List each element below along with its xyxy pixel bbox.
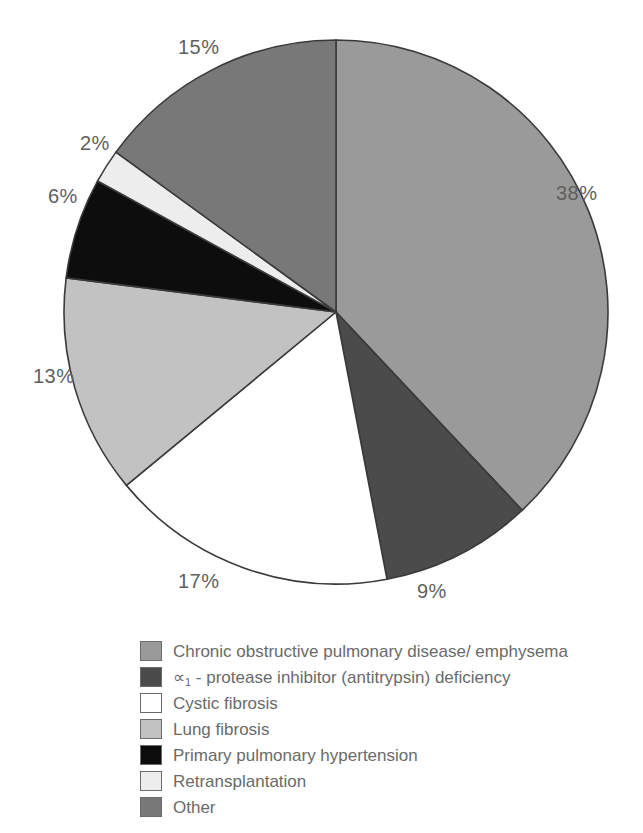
legend-item-copd[interactable]: Chronic obstructive pulmonary disease/ e… bbox=[140, 638, 640, 664]
legend-label-lung-fibrosis: Lung fibrosis bbox=[173, 721, 269, 738]
legend-label-other: Other bbox=[173, 799, 216, 816]
legend-swatch-lung-fibrosis bbox=[140, 719, 162, 739]
legend-item-cystic-fibrosis[interactable]: Cystic fibrosis bbox=[140, 690, 640, 716]
legend-item-other[interactable]: Other bbox=[140, 794, 640, 820]
legend-swatch-primary-pulmonary-hypertension bbox=[140, 745, 162, 765]
legend-label-copd: Chronic obstructive pulmonary disease/ e… bbox=[173, 643, 568, 660]
slice-percent-label-other: 15% bbox=[178, 36, 220, 59]
legend-swatch-cystic-fibrosis bbox=[140, 693, 162, 713]
slice-percent-label-retransplantation: 2% bbox=[80, 132, 110, 155]
legend-item-primary-pulmonary-hypertension[interactable]: Primary pulmonary hypertension bbox=[140, 742, 640, 768]
legend-swatch-other bbox=[140, 797, 162, 817]
legend-swatch-retransplantation bbox=[140, 771, 162, 791]
legend-swatch-antitrypsin-deficiency bbox=[140, 667, 162, 687]
legend-label-antitrypsin-deficiency: ∝1 - protease inhibitor (antitrypsin) de… bbox=[173, 669, 511, 686]
chart-legend: Chronic obstructive pulmonary disease/ e… bbox=[140, 638, 640, 820]
legend-item-antitrypsin-deficiency[interactable]: ∝1 - protease inhibitor (antitrypsin) de… bbox=[140, 664, 640, 690]
legend-swatch-copd bbox=[140, 641, 162, 661]
legend-label-cystic-fibrosis: Cystic fibrosis bbox=[173, 695, 278, 712]
slice-percent-label-antitrypsin-deficiency: 9% bbox=[417, 580, 447, 603]
slice-percent-label-primary-pulmonary-hypertension: 6% bbox=[48, 185, 78, 208]
slice-percent-label-lung-fibrosis: 13% bbox=[33, 365, 75, 388]
legend-item-lung-fibrosis[interactable]: Lung fibrosis bbox=[140, 716, 640, 742]
pie-chart: 38%9%17%13%6%2%15% bbox=[0, 0, 643, 620]
slice-percent-label-copd: 38% bbox=[556, 182, 598, 205]
slice-percent-label-cystic-fibrosis: 17% bbox=[178, 570, 220, 593]
legend-label-retransplantation: Retransplantation bbox=[173, 773, 306, 790]
legend-item-retransplantation[interactable]: Retransplantation bbox=[140, 768, 640, 794]
pie-chart-svg bbox=[0, 0, 643, 620]
legend-label-primary-pulmonary-hypertension: Primary pulmonary hypertension bbox=[173, 747, 418, 764]
